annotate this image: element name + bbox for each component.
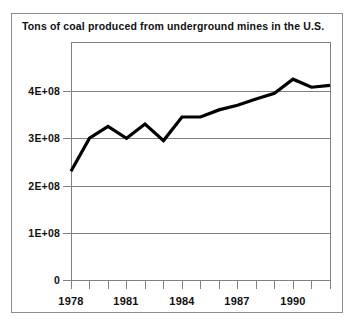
y-tick-label-3e08: 3E+08: [14, 132, 60, 144]
chart-figure: Tons of coal produced from underground m…: [0, 0, 354, 323]
x-tick-label-1978: 1978: [43, 295, 99, 307]
y-tick-label-1e08: 1E+08: [14, 227, 60, 239]
data-series-line: [71, 79, 330, 171]
y-gridlines: [63, 42, 330, 233]
x-tick-label-1981: 1981: [98, 295, 154, 307]
y-tick-label-2e08: 2E+08: [14, 180, 60, 192]
y-tick-label-4e08: 4E+08: [14, 85, 60, 97]
x-tick-label-1987: 1987: [209, 295, 265, 307]
y-tick-marks: [63, 91, 71, 280]
x-tick-label-1990: 1990: [265, 295, 321, 307]
y-tick-label-0: 0: [14, 274, 60, 286]
x-tick-marks: [71, 280, 330, 289]
x-tick-label-1984: 1984: [154, 295, 210, 307]
